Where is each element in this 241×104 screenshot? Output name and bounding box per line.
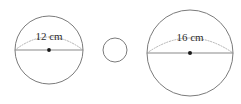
middle-circle-outline [103,38,127,62]
right-circle-center-dot [188,51,192,55]
right-circle-diameter-label: 16 cm [176,31,204,43]
left-circle-diameter-label: 12 cm [35,30,63,42]
left-circle: 12 cm [15,16,83,84]
right-circle: 16 cm [147,10,233,96]
circles-figure: 12 cm16 cm [0,0,241,104]
middle-circle [103,38,127,62]
shapes-layer: 12 cm16 cm [15,10,233,96]
figure-canvas: 12 cm16 cm [0,0,241,104]
left-circle-center-dot [47,48,51,52]
